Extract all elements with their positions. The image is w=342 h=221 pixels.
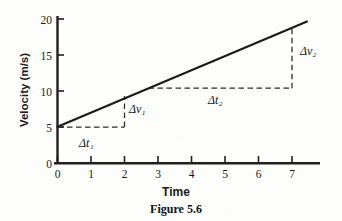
x-tick-label-1: 1 — [88, 168, 94, 180]
x-tick-label-5: 5 — [222, 168, 228, 180]
y-tick-label-5: 5 — [46, 122, 52, 134]
x-axis-title: Time — [162, 185, 190, 199]
x-tick-label-7: 7 — [289, 168, 295, 180]
velocity-time-data-line — [58, 22, 308, 127]
y-tick-label-20: 20 — [41, 14, 53, 26]
y-axis-title: Velocity (m/s) — [18, 53, 30, 127]
x-tick-label-4: 4 — [189, 168, 195, 180]
x-tick-label-2: 2 — [122, 168, 128, 180]
x-tick-label-0: 0 — [55, 168, 61, 180]
figure-caption: Figure 5.6 — [150, 202, 202, 216]
y-tick-label-0: 0 — [46, 158, 52, 170]
figure-5-6-velocity-time-graph: 20 15 10 5 0 0 1 2 3 4 5 6 7 — [0, 0, 342, 221]
y-tick-label-15: 15 — [41, 50, 53, 62]
delta-v1-label: Δv₁ — [128, 102, 146, 116]
delta-t1-label: Δt₁ — [78, 136, 94, 150]
x-tick-label-6: 6 — [256, 168, 262, 180]
y-tick-label-10: 10 — [41, 86, 53, 98]
x-axis-ticks: 0 1 2 3 4 5 6 7 — [55, 156, 296, 180]
annotation-labels: Δt₁ Δv₁ Δt₂ Δv₂ — [78, 44, 317, 150]
axes-group — [54, 16, 320, 164]
delta-v2-label: Δv₂ — [299, 44, 317, 58]
y-axis-ticks: 20 15 10 5 0 — [41, 14, 65, 170]
x-tick-label-3: 3 — [155, 168, 161, 180]
delta-t2-label: Δt₂ — [207, 93, 223, 107]
